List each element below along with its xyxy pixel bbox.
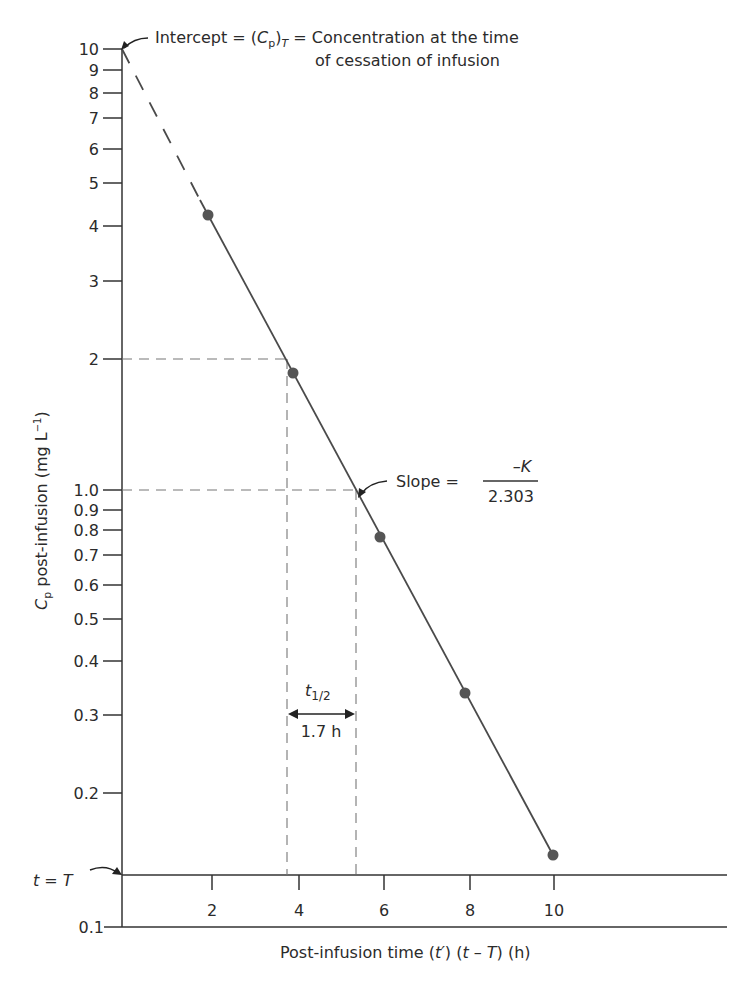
x-tick-label: 4	[294, 901, 304, 920]
y-tick-label: 0.2	[74, 784, 99, 803]
half-life-guides	[122, 359, 356, 875]
y-tick-label: 0.6	[74, 576, 99, 595]
y-tick-label: 4	[89, 217, 99, 236]
arrow-right-icon	[345, 709, 355, 719]
half-life-symbol: t1/2	[305, 681, 331, 703]
y-tick-label: 0.7	[74, 546, 99, 565]
y-tick-label: 0.9	[74, 501, 99, 520]
y-tick-label: 0.5	[74, 610, 99, 629]
arrow-left-icon	[288, 709, 298, 719]
x-tick-label: 10	[544, 901, 564, 920]
half-life-value: 1.7 h	[301, 722, 342, 741]
semi-log-plot: 10 9 8 7 6 5 4 3 2 1.0 0.9 0.8 0.7 0.6 0…	[0, 0, 753, 982]
fitted-line	[200, 200, 553, 855]
slope-numerator: –K	[513, 457, 533, 476]
y-tick-label: 5	[89, 174, 99, 193]
data-point	[203, 210, 214, 221]
y-axis-label: Cp post-infusion (mg L−1)	[32, 411, 54, 610]
y-ticks	[103, 49, 122, 793]
y-tick-label: 3	[89, 272, 99, 291]
y-tick-label: 0.3	[74, 706, 99, 725]
x-axis-label: Post-infusion time (t′) (t – T) (h)	[280, 943, 531, 962]
origin-label: t = T	[33, 871, 74, 890]
data-points	[203, 210, 559, 861]
y-tick-label: 6	[89, 140, 99, 159]
x-tick-labels: 2 4 6 8 10	[207, 901, 564, 920]
slope-denominator: 2.303	[488, 487, 534, 506]
data-point	[288, 368, 299, 379]
intercept-label: Intercept = (Cp)T = Concentration at the…	[155, 28, 519, 50]
y-tick-label: 0.1	[79, 918, 104, 937]
data-point	[375, 532, 386, 543]
data-point	[548, 850, 559, 861]
y-tick-label: 0.8	[74, 521, 99, 540]
y-tick-label: 9	[89, 61, 99, 80]
intercept-arrowhead-icon	[121, 41, 129, 50]
y-tick-label: 10	[79, 40, 99, 59]
y-tick-label: 7	[89, 109, 99, 128]
y-tick-label: 8	[89, 84, 99, 103]
data-point	[460, 688, 471, 699]
y-tick-label: 1.0	[74, 481, 99, 500]
y-tick-labels: 10 9 8 7 6 5 4 3 2 1.0 0.9 0.8 0.7 0.6 0…	[74, 40, 104, 937]
y-tick-label: 2	[89, 350, 99, 369]
intercept-label-line2: of cessation of infusion	[315, 51, 500, 70]
slope-label: Slope =	[396, 472, 459, 491]
extrapolated-line	[122, 49, 200, 200]
x-tick-label: 6	[379, 901, 389, 920]
x-ticks	[212, 875, 554, 890]
y-tick-label: 0.4	[74, 652, 99, 671]
x-tick-label: 2	[207, 901, 217, 920]
x-tick-label: 8	[465, 901, 475, 920]
